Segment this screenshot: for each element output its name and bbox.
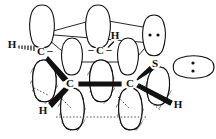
- orbital-diagram-figure: C – C – – S C C H H H H: [0, 0, 216, 139]
- atom-label-s: S: [152, 57, 158, 69]
- orbital-mid-open-1: [62, 38, 83, 75]
- charge-c2-right: –: [105, 43, 112, 55]
- orbital-sulfur-right-lobe: [173, 56, 214, 78]
- orbital-upper-2: [86, 5, 111, 48]
- atom-label-c2: C: [96, 44, 104, 56]
- orbital-diagram-canvas: C – C – – S C C H H H H: [0, 0, 216, 139]
- orbital-upper-3-sulfur: [143, 15, 166, 56]
- bond-c3-c4: [79, 82, 121, 86]
- atom-label-h-bottom-right: H: [174, 98, 183, 110]
- orbital-mid-open-2: [118, 38, 139, 75]
- atom-label-c1: C: [37, 45, 45, 57]
- atom-label-h-top-middle: H: [111, 29, 120, 41]
- atom-label-c3: C: [66, 77, 74, 89]
- orbital-upper-1: [30, 5, 55, 48]
- atom-label-h-bottom-left: H: [39, 104, 48, 116]
- atom-label-h-left: H: [8, 38, 17, 50]
- charge-c2-left: –: [87, 43, 94, 55]
- atom-label-c4: C: [126, 77, 134, 89]
- charge-c1: –: [46, 44, 53, 56]
